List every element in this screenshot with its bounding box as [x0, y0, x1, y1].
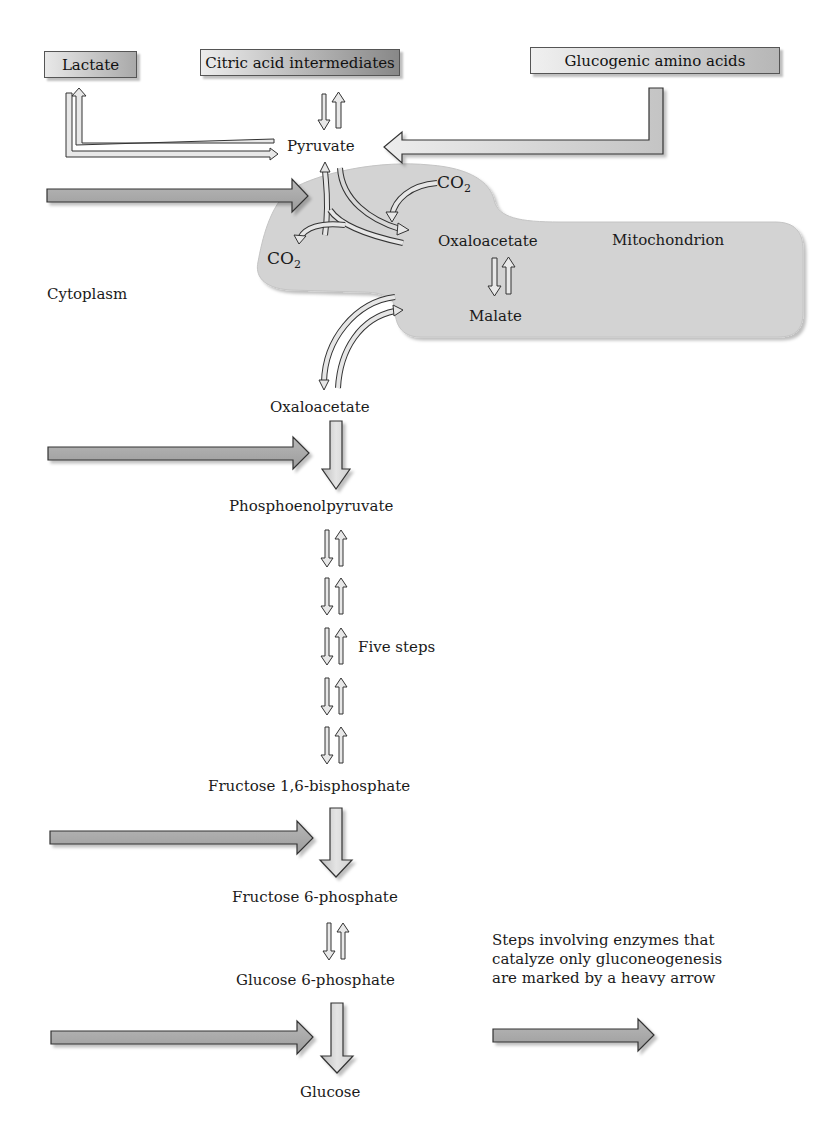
five-steps-label: Five steps	[358, 640, 435, 655]
co2-left-label: CO2	[267, 250, 301, 270]
fructose-6-phosphate-label: Fructose 6-phosphate	[232, 890, 398, 905]
mitochondrion-label: Mitochondrion	[612, 233, 724, 248]
glucogenic-amino-acids-box: Glucogenic amino acids	[530, 47, 780, 74]
mitochondrion-shape	[257, 164, 803, 337]
legend-line-2: catalyze only gluconeogenesis	[492, 950, 722, 969]
lactate-box: Lactate	[44, 51, 137, 78]
malate-label: Malate	[469, 309, 522, 324]
oaa-pep-arrow	[322, 421, 350, 489]
malate-cyto-curves	[319, 297, 403, 390]
legend-heavy-arrow	[493, 1019, 654, 1051]
oxaloacetate-cyto-label: Oxaloacetate	[270, 400, 370, 415]
oxaloacetate-mito-label: Oxaloacetate	[438, 234, 538, 249]
cytoplasm-label: Cytoplasm	[47, 287, 127, 302]
legend-text: Steps involving enzymes that catalyze on…	[492, 931, 722, 988]
heavy-arrow-pepck	[48, 437, 309, 469]
fbp-f6p-arrow	[320, 808, 352, 877]
pyruvate-label: Pyruvate	[287, 139, 355, 154]
glucogenic-amino-acids-label: Glucogenic amino acids	[565, 52, 746, 70]
glucose-6-phosphate-label: Glucose 6-phosphate	[236, 973, 395, 988]
co2-top-label: CO2	[437, 174, 471, 194]
glucogenic-pyruvate-arrow	[384, 88, 663, 163]
citric-pyruvate-arrows	[318, 92, 345, 130]
legend-line-1: Steps involving enzymes that	[492, 931, 722, 950]
citric-acid-box: Citric acid intermediates	[200, 49, 400, 76]
lactate-label: Lactate	[62, 56, 119, 74]
heavy-arrow-fbpase	[50, 821, 313, 854]
lactate-pyruvate-arrows	[66, 88, 278, 160]
citric-acid-label: Citric acid intermediates	[205, 54, 395, 72]
fructose-bisphosphate-label: Fructose 1,6-bisphosphate	[208, 779, 410, 794]
phosphoenolpyruvate-label: Phosphoenolpyruvate	[229, 499, 393, 514]
glucose-label: Glucose	[300, 1085, 360, 1100]
g6p-glucose-arrow	[321, 1003, 353, 1073]
heavy-arrow-g6pase	[51, 1021, 313, 1054]
heavy-arrow-pyruvate-carboxylase	[47, 179, 308, 212]
legend-line-3: are marked by a heavy arrow	[492, 969, 722, 988]
